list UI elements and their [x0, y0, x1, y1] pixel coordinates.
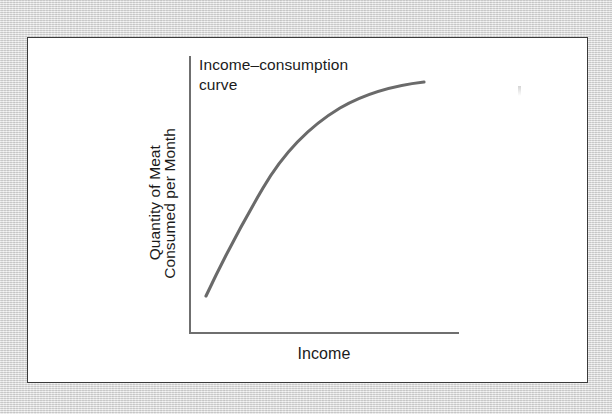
- income-consumption-curve: [206, 82, 424, 296]
- y-axis-title-line1: Quantity of Meat: [147, 145, 163, 260]
- y-axis-title: Quantity of Meat Consumed per Month: [143, 105, 181, 301]
- figure-page: Quantity of Meat Consumed per Month Inco…: [0, 0, 612, 414]
- y-axis-title-line2: Consumed per Month: [162, 128, 178, 279]
- curve-annotation-label: Income–consumption curve: [199, 55, 348, 95]
- x-axis-title: Income: [190, 345, 458, 363]
